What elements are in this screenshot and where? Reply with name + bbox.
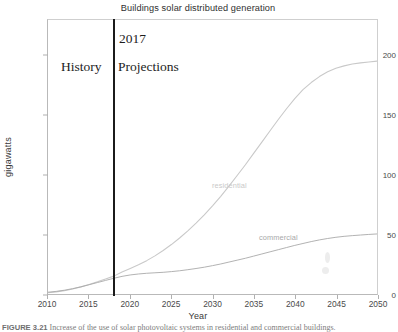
y-tick-mark	[43, 55, 48, 56]
figure-caption-number: FIGURE 3.21	[2, 323, 48, 332]
x-tick-label: 2020	[110, 299, 150, 309]
scan-artifact	[322, 267, 329, 274]
y-tick-mark	[43, 175, 48, 176]
x-tick-mark	[88, 295, 89, 299]
annotation-projections: Projections	[118, 59, 179, 75]
x-tick-label: 2050	[358, 299, 398, 309]
x-tick-label: 2010	[27, 299, 67, 309]
annotation-divider-year: 2017	[119, 31, 146, 47]
y-axis-label: gigawatts	[3, 137, 13, 177]
y-tick-label: 150	[354, 111, 396, 120]
x-tick-mark	[337, 295, 338, 299]
x-tick-label: 2040	[275, 299, 315, 309]
series-label-residential: residential	[212, 181, 247, 190]
x-tick-label: 2030	[193, 299, 233, 309]
y-tick-mark	[43, 115, 48, 116]
scan-artifact	[325, 252, 330, 263]
x-tick-label: 2025	[151, 299, 191, 309]
x-tick-label: 2045	[317, 299, 357, 309]
figure-caption: FIGURE 3.21 Increase of the use of solar…	[2, 323, 396, 332]
y-tick-label: 100	[354, 171, 396, 180]
figure-caption-text: Increase of the use of solar photovoltai…	[48, 323, 336, 332]
series-line-commercial	[48, 234, 377, 292]
x-tick-mark	[47, 295, 48, 299]
x-tick-mark	[254, 295, 255, 299]
x-tick-label: 2035	[234, 299, 274, 309]
y-tick-label: 200	[354, 51, 396, 60]
series-label-commercial: commercial	[259, 233, 298, 242]
x-tick-mark	[378, 295, 379, 299]
chart-title: Buildings solar distributed generation	[0, 3, 396, 13]
y-tick-mark	[43, 235, 48, 236]
y-tick-label: 50	[354, 231, 396, 240]
history-projection-divider	[113, 19, 115, 296]
x-tick-mark	[295, 295, 296, 299]
x-tick-mark	[213, 295, 214, 299]
x-tick-label: 2015	[68, 299, 108, 309]
x-tick-mark	[130, 295, 131, 299]
x-axis-label: Year	[0, 311, 396, 321]
annotation-history: History	[61, 59, 102, 75]
x-tick-mark	[171, 295, 172, 299]
